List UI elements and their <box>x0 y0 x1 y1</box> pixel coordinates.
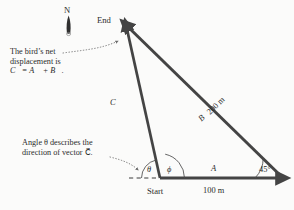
start-point-label: Start <box>147 186 163 196</box>
vector-c-label: C⃗ <box>110 97 122 107</box>
figure-canvas: N End Start The bird’s net displacement … <box>0 0 294 210</box>
theta-direction-note: Angle θ describes the direction of vecto… <box>22 138 127 157</box>
net-displacement-note-line-1: The bird’s net <box>10 47 102 57</box>
compass-north-label: N <box>64 5 70 15</box>
vector-b-line <box>129 28 283 179</box>
vector-diagram-svg <box>0 0 294 210</box>
end-point-label: End <box>97 15 111 25</box>
vector-a-label: A⃗ <box>211 163 223 173</box>
phi-angle-label: ϕ <box>167 165 171 175</box>
net-displacement-equation-rhs: = A⃗ + B⃗. <box>22 66 64 75</box>
net-displacement-equation: C⃗= A⃗ + B⃗. <box>10 66 102 76</box>
theta-note-leader-line <box>110 157 137 169</box>
theta-direction-note-line-2: direction of vector C⃗. <box>22 148 127 158</box>
net-displacement-equation-lhs: C⃗ <box>10 66 22 75</box>
vector-a-magnitude: 100 m <box>203 186 224 196</box>
corner-angle-label: 45° <box>259 165 271 175</box>
theta-direction-note-line-1: Angle θ describes the <box>22 138 127 148</box>
compass-needle-north-icon <box>67 16 71 36</box>
theta-angle-label: θ <box>147 165 151 175</box>
net-displacement-note-line-2: displacement is <box>10 57 102 67</box>
net-displacement-note: The bird’s net displacement is C⃗= A⃗ + … <box>10 47 102 76</box>
vector-c-line <box>127 28 160 178</box>
